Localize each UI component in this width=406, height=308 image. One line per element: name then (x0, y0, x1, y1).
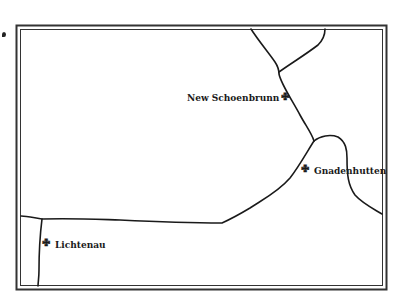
map-canvas (0, 0, 406, 308)
river-main-upper (251, 29, 314, 141)
river-branch-northeast (279, 29, 325, 72)
river-branch-south (38, 219, 42, 286)
river-main-southwest (21, 141, 314, 223)
place-label-lichtenau: Lichtenau (55, 240, 106, 250)
cross-icon: ✙ (281, 92, 289, 102)
cross-icon: ✙ (42, 238, 50, 248)
cross-icon: ✙ (301, 164, 309, 174)
place-label-new-schoenbrunn: New Schoenbrunn (187, 93, 279, 103)
place-label-gnadenhutten: Gnadenhutten (314, 166, 386, 176)
